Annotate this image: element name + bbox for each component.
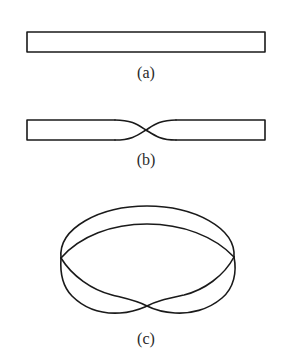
flat-strip-rectangle [27,32,265,52]
mobius-outer-top-edge [61,206,234,258]
panel-b-twisted-strip [27,120,265,140]
twisted-strip-left-end [27,120,115,140]
figure-drawing [0,0,287,362]
twist-edge-ascending [115,120,176,140]
mobius-inner-top-edge [61,224,234,258]
panel-c-mobius-strip [61,206,235,313]
panel-b-label: (b) [116,151,176,169]
panel-a-label: (a) [116,64,176,82]
twisted-strip-right-end [176,120,265,140]
mobius-left-outer-edge [61,258,147,313]
panel-a-flat-strip [27,32,265,52]
panel-c-label: (c) [116,330,176,348]
mobius-strip-figure: (a) (b) (c) [0,0,287,362]
mobius-right-outer-edge [147,257,235,313]
